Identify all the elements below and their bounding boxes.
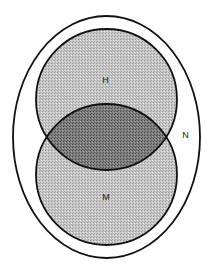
label-n: N xyxy=(182,130,189,140)
label-h: H xyxy=(102,75,109,85)
venn-diagram: H M N xyxy=(0,0,210,274)
label-m: M xyxy=(102,192,110,202)
